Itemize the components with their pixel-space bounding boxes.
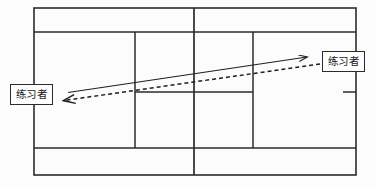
player-label-right: 练习者	[322, 51, 365, 72]
player-label-right-text: 练习者	[328, 56, 360, 67]
player-label-left: 练习者	[10, 84, 53, 105]
dashed-return-arrow	[64, 64, 320, 101]
court-lines	[0, 0, 376, 188]
player-label-left-text: 练习者	[16, 89, 48, 100]
court-diagram-canvas: 练习者 练习者	[0, 0, 376, 188]
solid-shot-arrow	[68, 57, 307, 93]
